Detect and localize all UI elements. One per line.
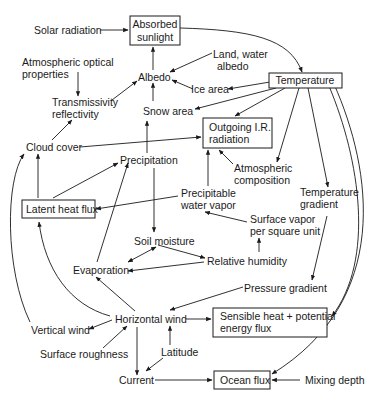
atmospheric-composition-label: Atmospheric [234,162,292,174]
reflectivity-label: reflectivity [52,108,99,120]
edge-icearea-albedo [172,80,193,89]
solar-radiation-label: Solar radiation [34,24,102,36]
ocean-flux-label: Ocean flux [220,374,271,386]
edge-pwv-latent [96,196,178,209]
edge-cloud-outgoing [80,137,201,147]
edge-roughness-hwind [103,326,127,348]
vertical-wind-label: Vertical wind [31,324,90,336]
temperature-gradient-label: Temperature [300,186,359,198]
current-label: Current [119,374,154,386]
temperature-gradient-label-2: gradient [300,198,338,210]
edge-evap-precip [97,163,128,262]
latent-heat-flux-label: Latent heat flux [26,203,99,215]
outgoing-ir-label-2: radiation [209,133,249,145]
transmissivity-label: Transmissivity [52,96,119,108]
snow-area-label: Snow area [143,105,193,117]
atmospheric-optical-properties-label: Atmospheric optical [22,56,114,68]
surface-vapor-label: Surface vapor [250,213,316,225]
edge-atmoscomp-outgoing [219,150,233,164]
edge-temperature-icearea [228,82,270,89]
edge-cloud-transmissivity [52,120,72,140]
soil-moisture-label: Soil moisture [134,235,195,247]
pressure-gradient-label: Pressure gradient [244,282,327,294]
edge-latent-precip [53,163,118,198]
edge-landalbedo-albedo [170,53,212,72]
edge-relhum-evap [128,262,204,271]
edge-hwind-evap [96,277,135,311]
horizontal-wind-label: Horizontal wind [115,313,187,325]
ice-area-label: Ice area [191,83,229,95]
edge-latitude-current [146,358,163,371]
land-water-albedo-label: Land, water [213,48,268,60]
latitude-label: Latitude [161,346,199,358]
edge-pressure-hwind [170,287,243,310]
absorbed-sunlight-label: Absorbed [133,18,178,30]
surface-vapor-label-2: per square unit [250,225,320,237]
evaporation-label: Evaporation [73,264,129,276]
sensible-heat-label: Sensible heat + potential [220,310,335,322]
edge-temperature-atmoscomp [277,88,299,162]
precipitable-water-vapor-label: Precipitable [181,187,236,199]
edge-soil-evap [128,247,156,262]
edge-temperature-tempgradient [308,88,328,187]
atmospheric-optical-properties-label-2: properties [22,68,69,80]
temperature-label: Temperature [276,74,335,86]
albedo-label: Albedo [138,71,171,83]
edge-surfvapor-pwv [205,212,247,222]
atmospheric-composition-label-2: composition [234,174,290,186]
surface-roughness-label: Surface roughness [40,348,128,360]
mixing-depth-label: Mixing depth [305,374,365,386]
precipitation-label: Precipitation [120,154,178,166]
edge-vwind-cloud [10,154,30,322]
sensible-heat-label-2: energy flux [220,322,272,334]
precipitable-water-vapor-label-2: water vapor [180,199,236,211]
climate-diagram: Solar radiation Absorbed sunlight Land, … [0,0,386,406]
absorbed-sunlight-label-2: sunlight [137,31,173,43]
land-water-albedo-label-2: albedo [217,60,249,72]
outgoing-ir-label: Outgoing I.R. [209,121,271,133]
cloud-cover-label: Cloud cover [26,141,83,153]
relative-humidity-label: Relative humidity [207,255,288,267]
edge-hwind-vwind [89,320,112,329]
